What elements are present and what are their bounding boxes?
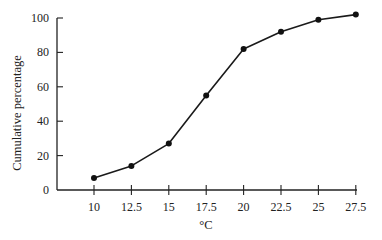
- y-tick-label: 20: [37, 149, 49, 163]
- data-point: [278, 29, 284, 35]
- series-line: [94, 15, 356, 178]
- x-axis-label: °C: [199, 218, 212, 232]
- data-point: [353, 12, 359, 18]
- x-tick-label: 22.5: [271, 200, 292, 214]
- x-tick-label: 10: [88, 200, 100, 214]
- data-point: [128, 163, 134, 169]
- data-point: [203, 92, 209, 98]
- x-tick-label: 12.5: [121, 200, 142, 214]
- y-tick-label: 100: [31, 11, 49, 25]
- data-points: [91, 12, 359, 181]
- y-tick-label: 40: [37, 114, 49, 128]
- x-tick-label: 17.5: [196, 200, 217, 214]
- data-point: [166, 141, 172, 147]
- cumulative-percentage-chart: 020406080100 1012.51517.52022.52527.5 Cu…: [0, 0, 382, 240]
- y-ticks: 020406080100: [31, 11, 63, 197]
- data-series: [91, 12, 359, 181]
- x-tick-label: 27.5: [345, 200, 366, 214]
- y-axis-label: Cumulative percentage: [10, 55, 24, 171]
- y-tick-label: 80: [37, 45, 49, 59]
- y-tick-label: 0: [43, 183, 49, 197]
- x-tick-label: 15: [163, 200, 175, 214]
- axes: [57, 18, 357, 190]
- data-point: [241, 46, 247, 52]
- data-point: [315, 17, 321, 23]
- y-tick-label: 60: [37, 80, 49, 94]
- x-tick-label: 25: [312, 200, 324, 214]
- data-point: [91, 175, 97, 181]
- x-tick-label: 20: [238, 200, 250, 214]
